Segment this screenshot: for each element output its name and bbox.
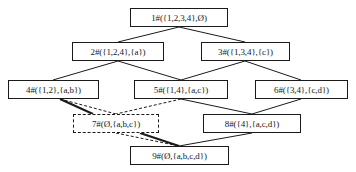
node-8-label: 8#({4},{a,c,d}): [225, 119, 280, 129]
node-4: 4#({1,2},{a,b}): [8, 80, 99, 99]
node-5-label: 5#({1,4},{a,c}): [154, 85, 209, 95]
edge-1-3: [179, 27, 245, 42]
edge-2-5: [118, 61, 181, 80]
edge-4-9: [60, 99, 93, 114]
edge-2-4: [53, 61, 118, 80]
node-8: 8#({4},{a,c,d}): [203, 114, 301, 133]
node-4-label: 4#({1,2},{a,b}): [26, 85, 81, 95]
edge-5-8: [181, 99, 252, 114]
edge-3-6: [245, 61, 301, 80]
node-6: 6#({3,4},{c,d}): [255, 80, 348, 99]
node-3-label: 3#({1,3,4},{c}): [218, 47, 273, 57]
node-9-label: 9#(Ø,{a,b,c,d}): [152, 151, 207, 161]
node-7-label: 7#(Ø,{a,b,c}): [92, 119, 140, 129]
edge-3-5: [181, 61, 245, 80]
edge-1-2: [118, 27, 179, 42]
node-3: 3#({1,3,4},{c}): [201, 42, 290, 61]
node-2: 2#({1,2,4},{a}): [72, 42, 164, 61]
node-1-label: 1#({1,2,3,4},Ø): [151, 13, 207, 23]
node-6-label: 6#({3,4},{c,d}): [274, 85, 329, 95]
node-5: 5#({1,4},{a,c}): [134, 80, 228, 99]
edge-5-7: [116, 99, 181, 114]
node-1: 1#({1,2,3,4},Ø): [130, 8, 228, 27]
edge-6-8: [252, 99, 301, 114]
edge-8-9: [179, 133, 252, 146]
node-9: 9#(Ø,{a,b,c,d}): [130, 146, 229, 165]
node-7: 7#(Ø,{a,b,c}): [73, 114, 159, 133]
lattice-diagram: 1#({1,2,3,4},Ø) 2#({1,2,4},{a}) 3#({1,3,…: [0, 0, 356, 172]
node-2-label: 2#({1,2,4},{a}): [90, 47, 145, 57]
